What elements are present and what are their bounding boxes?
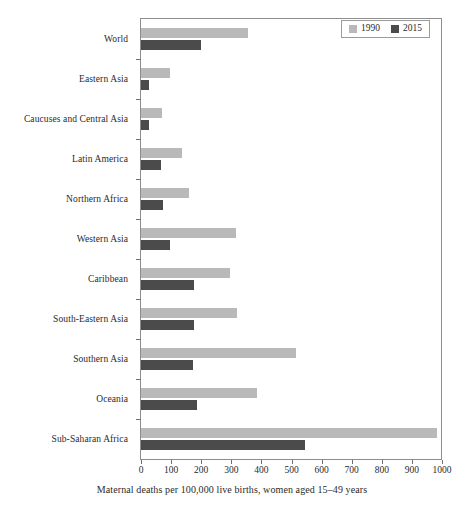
x-axis-tick-label: 500 xyxy=(284,465,298,475)
bar-2015 xyxy=(141,40,201,50)
y-axis-tick xyxy=(136,139,141,140)
y-axis-label: South-Eastern Asia xyxy=(0,299,134,339)
x-axis-tick xyxy=(261,460,262,464)
y-axis-tick xyxy=(136,99,141,100)
y-axis-tick xyxy=(136,379,141,380)
x-axis-tick xyxy=(171,460,172,464)
x-axis-tick-label: 800 xyxy=(375,465,389,475)
x-axis-tick xyxy=(382,460,383,464)
bar-2015 xyxy=(141,320,194,330)
bar-group xyxy=(141,339,442,379)
bar-1990 xyxy=(141,228,236,238)
y-axis-label: Southern Asia xyxy=(0,339,134,379)
x-axis-tick xyxy=(292,460,293,464)
y-axis-label: World xyxy=(0,19,134,59)
x-axis-tick xyxy=(231,460,232,464)
y-axis-label: Latin America xyxy=(0,139,134,179)
y-axis-tick xyxy=(136,339,141,340)
legend-swatch-2015 xyxy=(391,25,399,33)
bar-2015 xyxy=(141,360,193,370)
y-axis-label: Caucuses and Central Asia xyxy=(0,99,134,139)
bar-group xyxy=(141,179,442,219)
bar-1990 xyxy=(141,188,189,198)
bar-1990 xyxy=(141,268,230,278)
y-axis-label: Oceania xyxy=(0,379,134,419)
bar-group xyxy=(141,259,442,299)
bar-1990 xyxy=(141,388,257,398)
y-axis-tick xyxy=(136,299,141,300)
y-axis-label: Caribbean xyxy=(0,259,134,299)
bar-2015 xyxy=(141,200,163,210)
bar-2015 xyxy=(141,240,170,250)
legend-label: 1990 xyxy=(361,24,380,34)
y-axis-label: Eastern Asia xyxy=(0,59,134,99)
bar-group xyxy=(141,219,442,259)
x-axis-tick-label: 900 xyxy=(405,465,419,475)
y-axis-category-labels: WorldEastern AsiaCaucuses and Central As… xyxy=(0,19,134,459)
x-axis-tick xyxy=(412,460,413,464)
bar-1990 xyxy=(141,28,248,38)
x-axis-tick-label: 600 xyxy=(314,465,328,475)
bar-2015 xyxy=(141,120,149,130)
bar-1990 xyxy=(141,308,237,318)
x-axis-tick xyxy=(141,460,142,464)
bar-group xyxy=(141,139,442,179)
bar-group xyxy=(141,299,442,339)
legend-swatch-1990 xyxy=(349,25,357,33)
bar-groups-layer xyxy=(141,19,442,459)
x-axis-tick-label: 100 xyxy=(164,465,178,475)
y-axis-tick xyxy=(136,179,141,180)
maternal-mortality-bar-chart: WorldEastern AsiaCaucuses and Central As… xyxy=(0,0,464,519)
x-axis-tick xyxy=(442,460,443,464)
bar-group xyxy=(141,419,442,459)
x-axis-tick-label: 300 xyxy=(224,465,238,475)
y-axis-tick xyxy=(136,59,141,60)
chart-legend: 19902015 xyxy=(341,20,430,38)
y-axis-label: Western Asia xyxy=(0,219,134,259)
bar-2015 xyxy=(141,160,161,170)
bar-group xyxy=(141,379,442,419)
y-axis-label: Sub-Saharan Africa xyxy=(0,419,134,459)
legend-item: 2015 xyxy=(391,24,422,34)
bar-2015 xyxy=(141,440,305,450)
bar-group xyxy=(141,59,442,99)
x-axis-tick-label: 400 xyxy=(254,465,268,475)
bar-1990 xyxy=(141,148,182,158)
x-axis-tick xyxy=(322,460,323,464)
y-axis-tick xyxy=(136,419,141,420)
y-axis-tick xyxy=(136,259,141,260)
legend-label: 2015 xyxy=(403,24,422,34)
bar-1990 xyxy=(141,428,437,438)
bar-2015 xyxy=(141,80,149,90)
bar-group xyxy=(141,99,442,139)
y-axis-label: Northern Africa xyxy=(0,179,134,219)
x-axis-tick-label: 0 xyxy=(139,465,144,475)
x-axis-tick xyxy=(352,460,353,464)
y-axis-tick xyxy=(136,219,141,220)
x-axis-tick xyxy=(201,460,202,464)
x-axis-title: Maternal deaths per 100,000 live births,… xyxy=(0,484,464,495)
x-axis-tick-label: 1000 xyxy=(433,465,452,475)
bar-1990 xyxy=(141,68,170,78)
bar-1990 xyxy=(141,348,296,358)
x-axis-tick-label: 700 xyxy=(345,465,359,475)
bar-2015 xyxy=(141,280,194,290)
bar-2015 xyxy=(141,400,197,410)
x-axis-tick-label: 200 xyxy=(194,465,208,475)
bar-1990 xyxy=(141,108,162,118)
legend-item: 1990 xyxy=(349,24,380,34)
